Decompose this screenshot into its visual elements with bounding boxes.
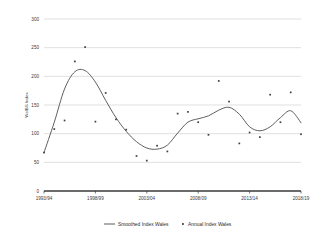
- data-point-marker: [74, 61, 76, 63]
- x-tick-label: 2013/14: [241, 196, 258, 201]
- data-point-marker: [156, 145, 158, 147]
- data-point-marker: [177, 113, 179, 115]
- data-point-marker: [84, 46, 86, 48]
- chart-legend: Smoothed Index WalesAnnual Index Wales: [104, 222, 232, 227]
- data-point-marker: [136, 155, 138, 157]
- legend-label: Annual Index Wales: [188, 222, 232, 227]
- x-tick-label: 2003/04: [138, 196, 155, 201]
- scatter-line-chart: 050100150200250300 WelBS Index 1993/9419…: [0, 0, 325, 237]
- gridlines: [44, 19, 301, 162]
- data-point-marker: [300, 133, 302, 135]
- data-point-marker: [105, 92, 107, 94]
- y-tick-label: 150: [31, 103, 39, 108]
- data-point-marker: [290, 92, 292, 94]
- y-tick-label: 0: [36, 189, 39, 194]
- x-tick-label: 1993/94: [36, 196, 53, 201]
- chart-container: 050100150200250300 WelBS Index 1993/9419…: [0, 0, 325, 237]
- data-point-marker: [95, 121, 97, 123]
- data-point-marker: [187, 111, 189, 113]
- data-point-marker: [125, 129, 127, 131]
- data-point-marker: [238, 143, 240, 145]
- data-point-marker: [218, 80, 220, 82]
- data-point-marker: [249, 132, 251, 134]
- x-tick-label: 2008/09: [190, 196, 207, 201]
- smoothed-index-path: [44, 69, 301, 152]
- x-axis-line: [44, 191, 301, 194]
- data-point-marker: [280, 121, 282, 123]
- y-tick-label: 250: [31, 45, 39, 50]
- data-point-marker: [259, 136, 261, 138]
- data-point-marker: [43, 152, 45, 154]
- data-point-marker: [269, 94, 271, 96]
- smoothed-index-line: [44, 69, 301, 152]
- y-tick-label: 200: [31, 74, 39, 79]
- data-point-marker: [208, 134, 210, 136]
- y-axis-title: WelBS Index: [24, 92, 29, 118]
- x-tick-label: 2018/19: [293, 196, 310, 201]
- data-point-marker: [167, 151, 169, 153]
- x-tick-label: 1998/99: [87, 196, 104, 201]
- data-point-marker: [53, 128, 55, 130]
- y-axis-title-text: WelBS Index: [24, 92, 29, 118]
- y-tick-label: 300: [31, 17, 39, 22]
- y-axis-tick-labels: 050100150200250300: [31, 17, 39, 194]
- legend-label: Smoothed Index Wales: [118, 222, 169, 227]
- annual-index-markers: [43, 46, 302, 161]
- y-tick-label: 50: [34, 160, 40, 165]
- data-point-marker: [64, 120, 66, 122]
- data-point-marker: [197, 121, 199, 123]
- data-point-marker: [146, 160, 148, 162]
- x-axis-tick-labels: 1993/941998/992003/042008/092013/142018/…: [36, 196, 310, 201]
- data-point-marker: [115, 118, 117, 120]
- data-point-marker: [228, 101, 230, 103]
- y-tick-label: 100: [31, 131, 39, 136]
